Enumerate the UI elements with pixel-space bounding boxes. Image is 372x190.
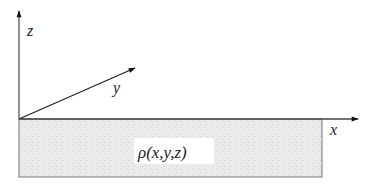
y-axis-label: y xyxy=(111,79,121,97)
z-axis: z xyxy=(19,11,34,119)
coordinate-diagram: ρ(x,y,z) z y x xyxy=(0,0,372,190)
z-axis-label: z xyxy=(26,22,34,39)
density-region: ρ(x,y,z) xyxy=(19,119,322,177)
y-axis: y xyxy=(19,68,135,119)
density-label: ρ(x,y,z) xyxy=(137,143,187,162)
x-axis-label: x xyxy=(329,121,337,138)
